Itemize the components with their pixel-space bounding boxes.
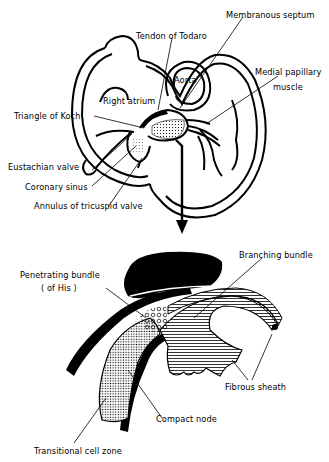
label-right-atrium: Right atrium <box>103 97 155 105</box>
label-triangle-of-koch: Triangle of Koch <box>14 112 81 120</box>
label-eustachian-valve: Eustachian valve <box>8 163 79 171</box>
label-tendon-of-todaro: Tendon of Todaro <box>136 32 207 40</box>
label-branching-bundle: Branching bundle <box>239 251 313 259</box>
triangle-of-koch-shape <box>152 120 184 139</box>
coronary-sinus-dash <box>131 138 145 154</box>
label-penetrating-bundle-1: Penetrating bundle <box>20 271 100 279</box>
label-fibrous-sheath: Fibrous sheath <box>225 383 286 391</box>
label-membranous-septum: Membranous septum <box>226 11 315 19</box>
label-penetrating-bundle-2: ( of His ) <box>41 284 77 292</box>
label-coronary-sinus: Coronary sinus <box>25 183 88 191</box>
label-compact-node: Compact node <box>156 415 217 423</box>
label-transitional-cell-zone: Transitional cell zone <box>34 447 122 455</box>
label-medial-papillary-2: muscle <box>273 83 303 91</box>
label-aorta: Aorta <box>174 76 197 84</box>
label-medial-papillary-1: Medial papillary <box>255 68 322 76</box>
arrow-down-icon <box>176 140 188 234</box>
label-annulus-tricuspid: Annulus of tricuspid valve <box>34 202 143 210</box>
